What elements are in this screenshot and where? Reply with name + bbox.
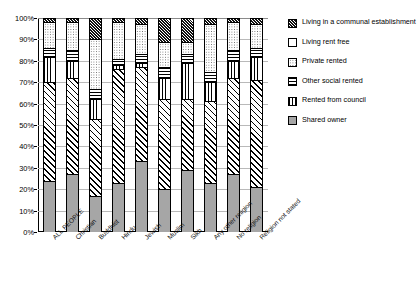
- plot-area: [38, 18, 268, 232]
- bar-column[interactable]: [89, 18, 102, 232]
- bar-segment: [227, 22, 240, 50]
- bar-segment: [204, 183, 217, 232]
- y-axis-tick: [34, 146, 37, 147]
- legend-swatch: [288, 77, 297, 86]
- y-axis-tick-label: 70%: [0, 78, 34, 87]
- bar-segment: [135, 161, 148, 232]
- bar-segment: [158, 67, 171, 78]
- legend-label: Living in a communal establishment: [302, 18, 416, 27]
- y-axis-tick-label: 10%: [0, 206, 34, 215]
- bar-segment: [43, 82, 56, 180]
- y-axis-tick: [34, 18, 37, 19]
- y-axis-tick: [34, 168, 37, 169]
- legend-item[interactable]: Shared owner: [288, 116, 416, 126]
- bar-segment: [135, 67, 148, 161]
- bar-segment: [43, 181, 56, 232]
- y-axis-tick: [34, 61, 37, 62]
- legend-swatch: [288, 58, 297, 67]
- bar-column[interactable]: [181, 18, 194, 232]
- y-axis-tick-label: 50%: [0, 121, 34, 130]
- legend-label: Shared owner: [302, 116, 347, 125]
- y-axis-tick-label: 20%: [0, 185, 34, 194]
- legend-swatch: [288, 97, 297, 106]
- bar-series-container: [38, 18, 268, 232]
- bar-segment: [43, 22, 56, 48]
- bar-column[interactable]: [227, 18, 240, 232]
- bar-segment: [66, 78, 79, 174]
- y-axis-tick: [34, 189, 37, 190]
- legend-item[interactable]: Living in a communal establishment: [288, 18, 416, 28]
- y-axis-tick-label: 100%: [0, 14, 34, 23]
- bar-segment: [66, 22, 79, 50]
- y-axis-tick: [34, 211, 37, 212]
- y-axis-tick-label: 90%: [0, 35, 34, 44]
- bar-segment: [89, 119, 102, 196]
- bar-segment: [135, 24, 148, 54]
- bar-segment: [204, 101, 217, 182]
- bar-column[interactable]: [158, 18, 171, 232]
- chart-legend: Living in a communal establishmentLiving…: [288, 18, 416, 135]
- y-axis-tick: [34, 82, 37, 83]
- legend-swatch: [288, 116, 297, 125]
- bar-segment: [89, 89, 102, 100]
- bar-segment: [181, 99, 194, 170]
- y-axis-tick-label: 40%: [0, 142, 34, 151]
- legend-swatch: [288, 38, 297, 47]
- bar-segment: [89, 39, 102, 88]
- bar-segment: [181, 63, 194, 99]
- bar-segment: [181, 54, 194, 63]
- bar-segment: [158, 78, 171, 99]
- y-axis-tick: [34, 125, 37, 126]
- y-axis-tick: [34, 232, 37, 233]
- bar-segment: [43, 57, 56, 83]
- bar-segment: [250, 80, 263, 187]
- bar-column[interactable]: [43, 18, 56, 232]
- bar-segment: [250, 48, 263, 57]
- legend-label: Living rent free: [302, 38, 350, 47]
- y-axis-tick-label: 60%: [0, 99, 34, 108]
- legend-item[interactable]: Other social rented: [288, 77, 416, 87]
- legend-item[interactable]: Living rent free: [288, 38, 416, 48]
- bar-segment: [227, 50, 240, 61]
- bar-segment: [112, 22, 125, 58]
- y-axis-tick-label: 80%: [0, 56, 34, 65]
- bar-segment: [250, 24, 263, 48]
- y-axis-tick: [34, 39, 37, 40]
- bar-segment: [227, 61, 240, 78]
- y-axis: 100%90%80%70%60%50%40%30%20%10%0%: [0, 18, 34, 232]
- legend-label: Other social rented: [302, 77, 363, 86]
- bar-column[interactable]: [66, 18, 79, 232]
- bar-column[interactable]: [112, 18, 125, 232]
- bar-segment: [112, 69, 125, 182]
- legend-swatch: [288, 19, 297, 28]
- y-axis-tick-label: 30%: [0, 163, 34, 172]
- bar-column[interactable]: [204, 18, 217, 232]
- y-axis-tick: [34, 104, 37, 105]
- bar-segment: [158, 42, 171, 68]
- bar-segment: [158, 99, 171, 189]
- legend-label: Rented from council: [302, 96, 366, 105]
- bar-column[interactable]: [250, 18, 263, 232]
- legend-item[interactable]: Private rented: [288, 57, 416, 67]
- bar-segment: [227, 78, 240, 174]
- bar-segment: [204, 24, 217, 71]
- bar-segment: [135, 54, 148, 63]
- chart-root: 100%90%80%70%60%50%40%30%20%10%0% ALL PE…: [0, 0, 420, 297]
- bar-segment: [250, 57, 263, 81]
- bar-segment: [89, 99, 102, 118]
- legend-label: Private rented: [302, 57, 347, 66]
- bar-column[interactable]: [135, 18, 148, 232]
- bar-segment: [204, 72, 217, 83]
- bar-segment: [158, 18, 171, 42]
- bar-segment: [181, 18, 194, 42]
- y-axis-tick-label: 0%: [0, 228, 34, 237]
- bar-segment: [66, 61, 79, 78]
- bar-segment: [204, 82, 217, 101]
- bar-segment: [181, 42, 194, 55]
- bar-segment: [43, 48, 56, 57]
- bar-segment: [66, 50, 79, 61]
- legend-item[interactable]: Rented from council: [288, 96, 416, 106]
- bar-segment: [89, 18, 102, 39]
- x-axis-labels: ALL PEOPLEChristianBuddhistHinduJewishMu…: [38, 233, 268, 295]
